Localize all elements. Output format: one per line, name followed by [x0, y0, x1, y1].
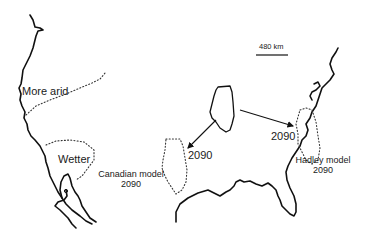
- arrow-to-hadley: [240, 110, 293, 126]
- west-coastline: [19, 15, 92, 224]
- hadley-model-year: 2090: [290, 166, 356, 175]
- hadley-model-caption: Hadley model 2090: [290, 156, 356, 175]
- illinois-current-outline: [210, 86, 234, 132]
- canadian-arrow-year-label: 2090: [188, 150, 212, 161]
- canadian-model-year: 2090: [95, 180, 167, 189]
- more-arid-label: More arid: [22, 86, 68, 97]
- wetter-label: Wetter: [58, 154, 90, 165]
- baja-inner: [55, 190, 76, 228]
- canadian-model-caption: Canadian model 2090: [95, 170, 167, 189]
- hadley-arrow-year-label: 2090: [271, 131, 295, 142]
- map-canvas: [0, 0, 365, 231]
- scale-bar-label: 480 km: [259, 43, 284, 51]
- hadley-model-name: Hadley model: [290, 156, 356, 165]
- canadian-model-name: Canadian model: [95, 170, 167, 179]
- arrow-to-canadian: [188, 120, 216, 148]
